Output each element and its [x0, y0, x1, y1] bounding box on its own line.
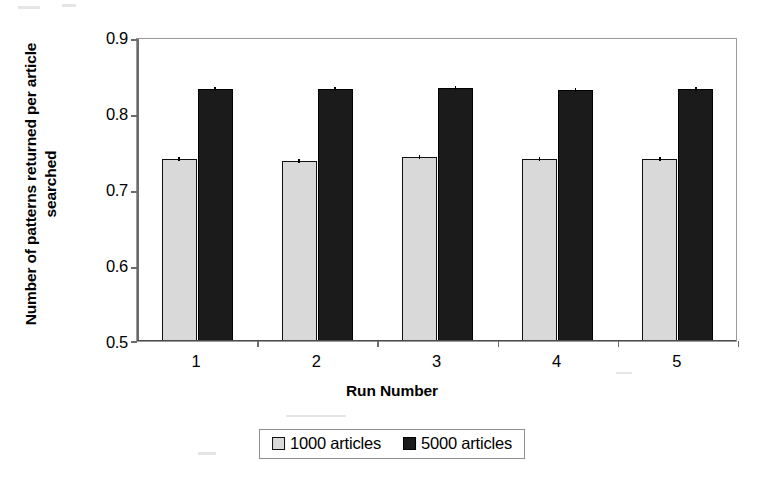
y-tick-label-1: 0.8: [82, 105, 128, 124]
x-tick-mark: [738, 341, 739, 347]
bar-light: [162, 159, 197, 341]
bar-group: [162, 39, 233, 341]
bar-dark: [198, 89, 233, 341]
x-axis-baseline: [137, 340, 736, 342]
scan-speckle: [62, 4, 76, 7]
bar-group: [642, 39, 713, 341]
error-bar: [298, 159, 300, 163]
x-tick-label-4: 5: [647, 352, 707, 371]
plot-area: [136, 38, 737, 342]
scan-speckle: [286, 415, 346, 417]
error-bar: [659, 157, 661, 161]
y-axis-tick-labels: 0.9 0.8 0.7 0.6 0.5: [82, 0, 128, 481]
legend-label-5000-articles: 5000 articles: [421, 434, 512, 453]
x-axis-title: Run Number: [0, 382, 784, 400]
y-tick-mark-4: [131, 341, 137, 343]
bar-chart-figure: Number of patterns returned per article …: [0, 0, 784, 481]
y-tick-label-2: 0.7: [82, 181, 128, 200]
y-axis-spine: [137, 39, 139, 341]
bar-group: [402, 39, 473, 341]
bar-dark: [438, 88, 473, 341]
bar-dark: [558, 90, 593, 341]
y-tick-label-0: 0.9: [82, 29, 128, 48]
scan-speckle: [616, 372, 632, 374]
x-tick-mark: [618, 341, 619, 347]
bar-dark: [318, 89, 353, 341]
error-bar: [539, 157, 541, 161]
scan-speckle: [18, 6, 40, 9]
bar-light: [402, 157, 437, 341]
x-tick-mark: [257, 341, 258, 347]
bar-dark: [678, 89, 713, 341]
x-tick-mark: [377, 341, 378, 347]
error-bar: [214, 87, 216, 91]
x-tick-label-1: 2: [286, 352, 346, 371]
light-gray-square-icon: [272, 437, 285, 450]
chart-legend: 1000 articles 5000 articles: [259, 429, 525, 459]
error-bar: [455, 86, 457, 90]
bar-light: [282, 161, 317, 341]
bar-group: [522, 39, 593, 341]
error-bar: [334, 87, 336, 91]
bar-group: [282, 39, 353, 341]
error-bar: [419, 155, 421, 159]
error-bar: [695, 87, 697, 91]
error-bar: [178, 157, 180, 161]
x-tick-label-2: 3: [407, 352, 467, 371]
y-tick-mark-3: [131, 267, 137, 269]
scan-speckle: [198, 452, 216, 455]
x-tick-label-0: 1: [166, 352, 226, 371]
x-tick-mark: [498, 341, 499, 347]
black-square-icon: [403, 437, 416, 450]
bar-light: [522, 159, 557, 341]
y-tick-mark-2: [131, 191, 137, 193]
legend-item-1000-articles: 1000 articles: [272, 434, 381, 453]
y-tick-mark-0: [131, 39, 137, 41]
legend-item-5000-articles: 5000 articles: [403, 434, 512, 453]
plot-inner: [137, 39, 736, 341]
y-tick-label-3: 0.6: [82, 257, 128, 276]
y-axis-title: Number of patterns returned per article …: [21, 24, 61, 344]
y-axis-title-container: Number of patterns returned per article …: [6, 24, 76, 344]
y-tick-mark-1: [131, 115, 137, 117]
y-tick-label-4: 0.5: [82, 333, 128, 352]
x-tick-label-3: 4: [527, 352, 587, 371]
error-bar: [575, 88, 577, 92]
bar-light: [642, 159, 677, 341]
legend-label-1000-articles: 1000 articles: [290, 434, 381, 453]
